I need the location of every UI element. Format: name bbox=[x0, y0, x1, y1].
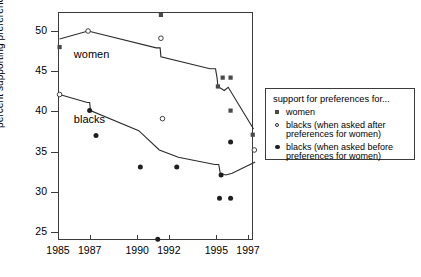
x-tick-label: 1992 bbox=[157, 244, 180, 256]
y-tick-mark bbox=[51, 31, 58, 32]
y-axis-label: percent supporting preferences bbox=[0, 0, 5, 128]
legend-entry-label: women bbox=[286, 108, 315, 118]
chart-root: percent supporting preferences 253035404… bbox=[0, 0, 421, 277]
legend-entries: womenblacks (when asked after preference… bbox=[272, 108, 409, 162]
x-tick-mark bbox=[58, 235, 59, 240]
y-tick-label: 50 bbox=[35, 24, 47, 36]
y-tick-label: 35 bbox=[35, 145, 47, 157]
x-tick-mark bbox=[90, 235, 91, 240]
y-tick-label: 45 bbox=[35, 64, 47, 76]
open-circle-icon bbox=[275, 123, 279, 127]
y-tick-mark bbox=[51, 71, 58, 72]
legend-entry: blacks (when asked before preferences fo… bbox=[272, 143, 409, 162]
legend-entry: blacks (when asked after preferences for… bbox=[272, 121, 409, 140]
x-tick-label: 1995 bbox=[205, 244, 228, 256]
y-tick-mark bbox=[51, 232, 58, 233]
plot-area bbox=[58, 12, 253, 240]
x-tick-mark bbox=[248, 235, 249, 240]
legend: support for preferences for... womenblac… bbox=[265, 88, 415, 160]
y-tick-label: 30 bbox=[35, 185, 47, 197]
y-tick-mark bbox=[51, 192, 58, 193]
x-tick-mark bbox=[169, 235, 170, 240]
y-tick-label: 25 bbox=[35, 225, 47, 237]
legend-entry-label: blacks (when asked after preferences for… bbox=[286, 121, 386, 140]
y-tick-mark bbox=[51, 152, 58, 153]
x-tick-label: 1985 bbox=[46, 244, 69, 256]
x-tick-label: 1990 bbox=[125, 244, 148, 256]
plot-annotation-women: women bbox=[74, 48, 109, 60]
y-tick-mark bbox=[51, 111, 58, 112]
legend-title: support for preferences for... bbox=[273, 94, 409, 104]
filled-circle-icon bbox=[275, 145, 280, 150]
y-tick-label: 40 bbox=[35, 104, 47, 116]
legend-entry: women bbox=[272, 108, 409, 118]
legend-entry-label: blacks (when asked before preferences fo… bbox=[286, 143, 393, 162]
x-tick-mark bbox=[216, 235, 217, 240]
x-tick-label: 1997 bbox=[236, 244, 259, 256]
x-tick-mark bbox=[137, 235, 138, 240]
plot-annotation-blacks: blacks bbox=[74, 113, 105, 125]
filled-square-icon bbox=[275, 110, 279, 114]
x-tick-label: 1987 bbox=[78, 244, 101, 256]
